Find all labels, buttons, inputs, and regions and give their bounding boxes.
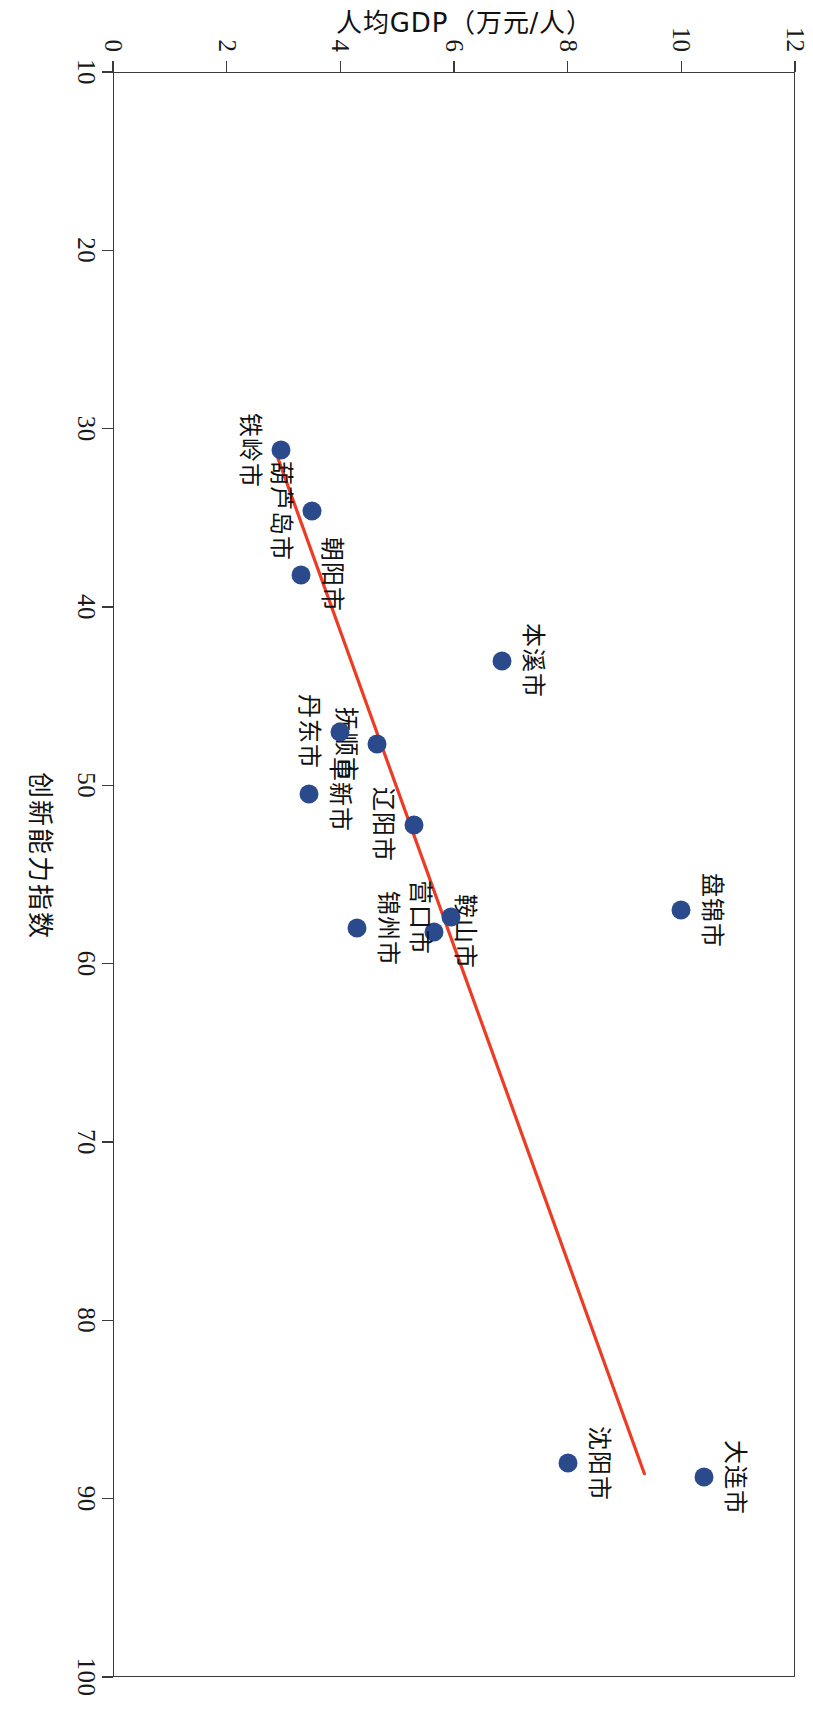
x-tick-label: 60 xyxy=(72,951,100,977)
data-point[interactable] xyxy=(271,441,290,460)
data-point[interactable] xyxy=(672,901,691,920)
x-tick-label: 20 xyxy=(72,237,100,263)
data-point[interactable] xyxy=(291,565,310,584)
x-tick-label: 50 xyxy=(72,772,100,798)
y-tick-label: 2 xyxy=(213,40,241,53)
data-point[interactable] xyxy=(493,651,512,670)
x-tick-label: 90 xyxy=(72,1486,100,1512)
y-tick xyxy=(340,61,341,72)
x-tick xyxy=(102,785,113,786)
chart-stage: 102030405060708090100 024681012 大连市沈阳市盘锦… xyxy=(0,0,813,1712)
data-point-label: 朝阳市 xyxy=(317,537,352,612)
data-point[interactable] xyxy=(368,735,387,754)
y-tick xyxy=(567,61,568,72)
x-axis-title: 创新能力指数 xyxy=(24,0,61,1712)
y-tick-label: 8 xyxy=(554,40,582,53)
x-tick xyxy=(102,1676,113,1677)
data-point-label: 辽阳市 xyxy=(368,787,403,862)
x-tick-label: 100 xyxy=(72,1658,100,1697)
data-point-label: 阜新市 xyxy=(325,757,360,832)
y-tick xyxy=(681,61,682,72)
x-tick xyxy=(102,606,113,607)
data-point-label: 本溪市 xyxy=(518,623,553,698)
y-tick-label: 0 xyxy=(99,40,127,53)
data-point[interactable] xyxy=(300,785,319,804)
x-tick-label: 10 xyxy=(72,59,100,85)
data-point-label: 铁岭市 xyxy=(235,413,270,488)
data-point-label: 营口市 xyxy=(405,880,440,955)
y-tick-label: 6 xyxy=(440,40,468,53)
data-point[interactable] xyxy=(405,815,424,834)
x-tick xyxy=(102,963,113,964)
data-point[interactable] xyxy=(302,501,321,520)
data-point[interactable] xyxy=(558,1454,577,1473)
x-tick xyxy=(102,1498,113,1499)
data-point-label: 盘锦市 xyxy=(697,873,732,948)
y-tick xyxy=(794,61,795,72)
y-tick xyxy=(226,61,227,72)
y-tick-label: 12 xyxy=(781,27,809,52)
x-tick xyxy=(102,1320,113,1321)
x-tick-label: 30 xyxy=(72,416,100,442)
data-point-label: 鞍山市 xyxy=(450,894,485,969)
x-tick-label: 70 xyxy=(72,1129,100,1155)
data-point[interactable] xyxy=(331,722,350,741)
data-point-label: 锦州市 xyxy=(373,891,408,966)
y-tick-label: 4 xyxy=(326,40,354,53)
x-tick-label: 80 xyxy=(72,1307,100,1333)
x-tick xyxy=(102,428,113,429)
plot-frame xyxy=(113,72,795,1677)
y-tick xyxy=(112,61,113,72)
data-point-label: 沈阳市 xyxy=(584,1426,619,1501)
data-point[interactable] xyxy=(695,1468,714,1487)
data-point[interactable] xyxy=(442,908,461,927)
y-tick xyxy=(453,61,454,72)
data-point[interactable] xyxy=(348,919,367,938)
data-point-label: 葫芦岛市 xyxy=(266,461,301,561)
x-tick xyxy=(102,250,113,251)
data-point-label: 大连市 xyxy=(720,1440,755,1515)
x-tick xyxy=(102,1141,113,1142)
chart-page: 102030405060708090100 024681012 大连市沈阳市盘锦… xyxy=(0,0,813,1712)
x-tick-label: 40 xyxy=(72,594,100,620)
y-axis-title: 人均GDP（万元/人） xyxy=(145,2,785,39)
